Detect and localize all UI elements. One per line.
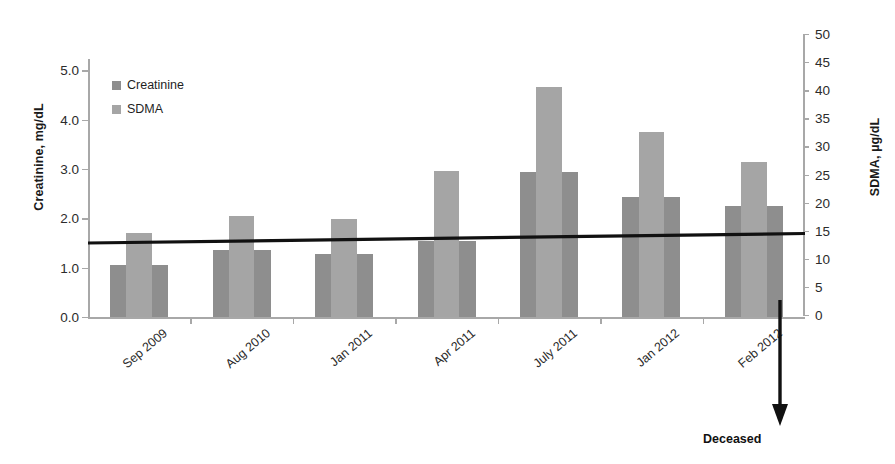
y-left-tick	[82, 120, 88, 121]
bar-sdma	[331, 219, 357, 317]
x-axis-tick	[293, 317, 294, 324]
y-right-tick-label: 35	[815, 111, 830, 126]
y-right-tick	[803, 34, 809, 35]
y-left-tick-label: 0.0	[60, 310, 79, 325]
x-axis-tick	[703, 317, 704, 324]
bar-sdma	[639, 132, 665, 317]
bar-group	[213, 34, 271, 317]
bar-group	[622, 34, 680, 317]
y-right-tick	[803, 90, 809, 91]
y-right-tick	[803, 62, 809, 63]
y-left-tick	[82, 317, 88, 318]
x-axis-tick	[600, 317, 601, 324]
legend-item-creatinine: Creatinine	[112, 78, 184, 92]
y-right-tick-label: 40	[815, 83, 830, 98]
y-axis-left-title: Creatinine, mg/dL	[32, 72, 46, 242]
deceased-annotation-label: Deceased	[703, 432, 761, 446]
bar-sdma	[741, 162, 767, 317]
y-axis-left-line	[88, 59, 90, 318]
y-right-tick	[803, 175, 809, 176]
bar-sdma	[229, 216, 255, 317]
bar-group	[315, 34, 373, 317]
chart-canvas: Creatinine, mg/dL SDMA, µg/dL 0.01.02.03…	[0, 0, 895, 464]
y-axis-right-title: SDMA, µg/dL	[868, 72, 882, 242]
plot-area: 0.01.02.03.04.05.0 05101520253035404550 …	[88, 34, 805, 318]
legend-item-sdma: SDMA	[112, 102, 184, 116]
x-axis-line	[88, 317, 805, 319]
y-right-tick-label: 45	[815, 55, 830, 70]
y-left-tick	[82, 218, 88, 219]
y-left-tick-label: 5.0	[60, 63, 79, 78]
y-right-tick-label: 15	[815, 223, 830, 238]
y-left-tick-label: 4.0	[60, 112, 79, 127]
bar-sdma	[536, 87, 562, 317]
legend-swatch-sdma	[112, 105, 121, 114]
y-right-tick	[803, 231, 809, 232]
y-right-tick	[803, 315, 809, 316]
bar-sdma	[434, 171, 460, 317]
bar-group	[520, 34, 578, 317]
x-axis-label: Apr 2011	[430, 326, 477, 369]
y-right-tick-label: 10	[815, 251, 830, 266]
bar-group	[110, 34, 168, 317]
y-left-tick-label: 3.0	[60, 162, 79, 177]
y-left-tick-label: 1.0	[60, 260, 79, 275]
x-axis-label: Jan 2011	[327, 326, 375, 369]
x-axis-tick	[395, 317, 396, 324]
chart-legend: Creatinine SDMA	[112, 78, 184, 126]
y-left-tick	[82, 70, 88, 71]
y-right-tick	[803, 259, 809, 260]
y-right-tick-label: 0	[815, 308, 823, 323]
y-left-tick	[82, 169, 88, 170]
legend-label-creatinine: Creatinine	[127, 78, 184, 92]
y-right-tick-label: 20	[815, 195, 830, 210]
y-left-tick	[82, 268, 88, 269]
deceased-arrow-icon	[765, 300, 795, 430]
bar-sdma	[126, 233, 152, 317]
x-axis-tick	[190, 317, 191, 324]
y-right-tick	[803, 146, 809, 147]
bar-group	[418, 34, 476, 317]
y-right-tick	[803, 118, 809, 119]
y-right-tick-label: 25	[815, 167, 830, 182]
y-right-tick	[803, 203, 809, 204]
x-axis-tick	[498, 317, 499, 324]
y-right-tick-label: 30	[815, 139, 830, 154]
x-axis-label: Sep 2009	[120, 326, 170, 371]
x-axis-label: July 2011	[531, 326, 580, 371]
bar-group	[725, 34, 783, 317]
y-right-tick-label: 50	[815, 27, 830, 42]
legend-label-sdma: SDMA	[127, 102, 163, 116]
x-axis-label: Aug 2010	[223, 326, 273, 371]
x-axis-label: Jan 2012	[634, 326, 682, 370]
y-left-tick-label: 2.0	[60, 211, 79, 226]
y-right-tick	[803, 287, 809, 288]
legend-swatch-creatinine	[112, 81, 121, 90]
y-right-tick-label: 5	[815, 279, 823, 294]
